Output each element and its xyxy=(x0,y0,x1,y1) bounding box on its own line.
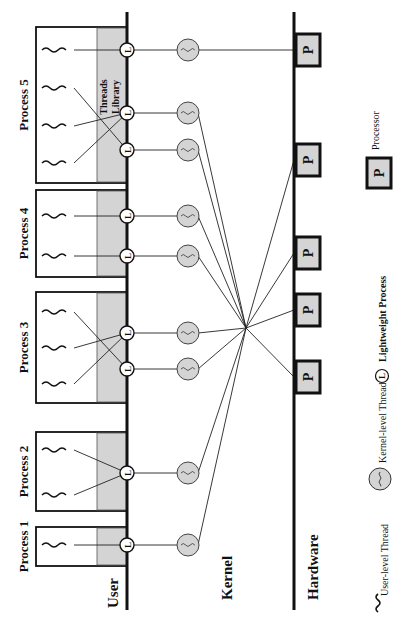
kernel-thread-icon xyxy=(177,462,199,484)
kernel-to-scheduler-line xyxy=(198,328,246,545)
process-label: Process 5 xyxy=(16,79,31,131)
hardware-layer-label: Hardware xyxy=(305,534,321,600)
solaris-thread-architecture-diagram: Process 1Process 2Process 3Process 4Proc… xyxy=(0,0,410,629)
scheduler-to-processor-line xyxy=(246,253,294,328)
kernel-to-scheduler-line xyxy=(198,328,246,333)
kernel-to-scheduler-line xyxy=(198,256,246,328)
process-label: Process 2 xyxy=(16,446,31,497)
legend: User-level Thread Kernel-level Thread L … xyxy=(367,110,391,612)
lwp-glyph: L xyxy=(123,47,133,53)
process-4: Process 4 xyxy=(16,190,127,277)
kernel-to-scheduler-line xyxy=(198,216,246,328)
legend-kernel-thread-label: Kernel-level Thread xyxy=(377,382,388,463)
user-layer-label: User xyxy=(105,578,121,608)
kernel-thread-icon xyxy=(177,102,199,124)
process-boxes: Process 1Process 2Process 3Process 4Proc… xyxy=(16,27,127,572)
processor-glyph: P xyxy=(301,248,316,257)
lwp-glyph: L xyxy=(123,366,133,372)
lwp-glyph: L xyxy=(123,253,133,259)
kernel-layer-label: Kernel xyxy=(219,556,235,600)
processor-glyph: P xyxy=(301,372,316,381)
lightweight-processes: LLLLLLLLL xyxy=(120,43,177,552)
lwp-glyph: L xyxy=(123,542,133,548)
kernel-thread-icon xyxy=(177,139,199,161)
legend-processor-glyph: P xyxy=(372,168,387,177)
process-2: Process 2 xyxy=(16,432,127,511)
kernel-to-scheduler-line xyxy=(198,113,246,328)
kernel-to-scheduler-line xyxy=(198,328,246,473)
process-1: Process 1 xyxy=(16,521,127,572)
threads-library-region xyxy=(97,191,127,276)
legend-processor-label: Processor xyxy=(370,110,381,150)
scheduler-to-processor-line xyxy=(246,328,294,377)
processor-glyph: P xyxy=(301,155,316,164)
kernel-threads xyxy=(177,39,199,556)
kernel-thread-icon xyxy=(177,358,199,380)
legend-lwp-glyph: L xyxy=(377,373,387,379)
processor-glyph: P xyxy=(301,305,316,314)
threads-library-label: Threads xyxy=(98,79,109,114)
kernel-thread-icon xyxy=(177,322,199,344)
kernel-thread-icon xyxy=(177,205,199,227)
process-label: Process 1 xyxy=(16,521,31,572)
threads-library-label: Library xyxy=(110,80,121,114)
kernel-thread-icon xyxy=(177,534,199,556)
scheduler-to-processor-line xyxy=(246,160,294,328)
kernel-thread-icon xyxy=(177,245,199,267)
processor-glyph: P xyxy=(301,45,316,54)
lwp-glyph: L xyxy=(123,470,133,476)
kernel-thread-icon xyxy=(177,39,199,61)
processors: PPPPP xyxy=(296,34,320,393)
processor-scheduling-lines xyxy=(198,50,294,545)
process-label: Process 3 xyxy=(16,321,31,373)
layer-lines xyxy=(127,12,294,610)
kernel-to-scheduler-line xyxy=(198,150,246,328)
legend-user-thread-label: User-level Thread xyxy=(379,524,390,596)
lwp-glyph: L xyxy=(123,330,133,336)
kernel-thread-legend-icon xyxy=(369,468,391,490)
legend-lwp-label: Lightweight Process xyxy=(377,276,388,362)
process-3: Process 3 xyxy=(16,292,127,403)
lwp-glyph: L xyxy=(123,213,133,219)
scheduler-to-processor-line xyxy=(246,310,294,328)
lwp-glyph: L xyxy=(123,147,133,153)
process-label: Process 4 xyxy=(16,207,31,259)
lwp-glyph: L xyxy=(123,110,133,116)
